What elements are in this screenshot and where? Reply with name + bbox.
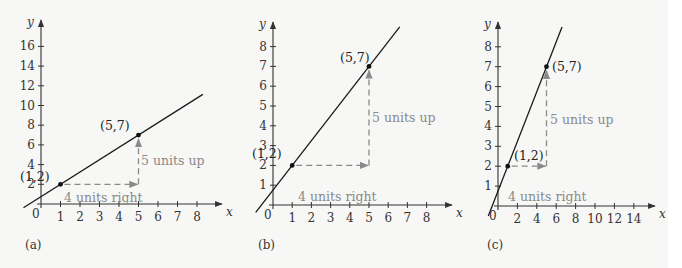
point-label-a-2: (5,7) (100, 118, 130, 133)
x-tick-label: 6 (384, 211, 392, 225)
x-tick-label: 2 (514, 212, 522, 226)
y-tick-label: 6 (27, 138, 35, 152)
point-a-1 (58, 182, 63, 187)
panel-label-c: (c) (487, 238, 503, 252)
y-tick-label: 7 (484, 60, 492, 74)
plots-canvas: (a) xy012345678246810121416(1,2)(5,7)4 u… (0, 0, 682, 268)
y-tick-label: 6 (484, 80, 492, 94)
point-label-c-2: (5,7) (552, 59, 582, 74)
x-tick-label: 6 (154, 210, 162, 224)
point-label-b-2: (5,7) (340, 50, 370, 65)
x-axis-label-a: x (226, 205, 233, 219)
x-tick-label: 3 (327, 211, 335, 225)
panel-label-b: (b) (258, 238, 275, 252)
point-c-2 (544, 64, 549, 69)
run-annotation-c: 4 units right (508, 189, 587, 204)
point-label-b-1: (1,2) (252, 146, 282, 161)
y-axis-label-c: y (483, 17, 491, 31)
x-tick-label: 8 (193, 210, 201, 224)
x-tick-label: 6 (552, 212, 560, 226)
y-tick-label: 8 (484, 40, 492, 54)
x-tick-label: 8 (423, 211, 431, 225)
x-tick-label: 4 (346, 211, 354, 225)
y-tick-label: 1 (259, 178, 267, 192)
x-tick-label: 4 (115, 210, 123, 224)
x-axis-label-c: x (659, 207, 666, 221)
run-annotation-b: 4 units right (298, 189, 377, 204)
y-tick-label: 5 (259, 99, 267, 113)
x-axis-label-b: x (456, 206, 463, 220)
y-axis-label-b: y (258, 17, 266, 31)
x-tick-label: 7 (174, 210, 182, 224)
x-tick-label: 10 (587, 212, 602, 226)
x-tick-label: 8 (572, 212, 580, 226)
x-tick-label: 5 (135, 210, 143, 224)
y-tick-label: 3 (484, 139, 492, 153)
point-b-1 (290, 163, 295, 168)
y-tick-label: 16 (20, 39, 35, 53)
figure: (a) xy012345678246810121416(1,2)(5,7)4 u… (0, 0, 682, 268)
y-tick-label: 10 (20, 99, 35, 113)
x-tick-label: 4 (533, 212, 541, 226)
y-axis-label-a: y (26, 15, 34, 29)
x-tick-label: 2 (76, 210, 84, 224)
y-tick-label: 8 (27, 118, 35, 132)
x-tick-label: 14 (626, 212, 642, 226)
y-tick-label: 4 (259, 119, 267, 133)
x-tick-label: 3 (96, 210, 104, 224)
x-tick-label: 5 (365, 211, 373, 225)
rise-annotation-b: 5 units up (372, 110, 436, 125)
x-tick-label: 1 (288, 211, 296, 225)
y-tick-label: 8 (259, 40, 267, 54)
origin-label-a: 0 (32, 207, 40, 221)
point-c-1 (505, 164, 510, 169)
rise-annotation-c: 5 units up (550, 112, 614, 127)
rise-annotation-a: 5 units up (141, 153, 205, 168)
run-annotation-a: 4 units right (64, 190, 143, 205)
x-tick-label: 7 (404, 211, 412, 225)
x-tick-label: 1 (57, 210, 65, 224)
y-tick-label: 5 (484, 100, 492, 114)
origin-label-b: 0 (264, 208, 272, 222)
point-label-a-1: (1,2) (20, 169, 50, 184)
x-tick-label: 12 (607, 212, 622, 226)
y-tick-label: 14 (20, 59, 36, 73)
panel-label-a: (a) (25, 238, 42, 252)
y-tick-label: 6 (259, 79, 267, 93)
y-tick-label: 7 (259, 59, 267, 73)
chart-a: (a) xy012345678246810121416(1,2)(5,7)4 u… (20, 15, 233, 252)
y-tick-label: 12 (20, 79, 35, 93)
y-tick-label: 4 (484, 119, 492, 133)
point-a-2 (136, 133, 141, 138)
y-tick-label: 2 (484, 159, 492, 173)
point-label-c-1: (1,2) (514, 148, 544, 163)
y-tick-label: 1 (484, 179, 492, 193)
chart-c: (c) xy0246810121412345678(1,2)(5,7)4 uni… (483, 17, 666, 252)
x-tick-label: 2 (308, 211, 316, 225)
chart-b: (b) xy01234567812345678(1,2)(5,7)4 units… (252, 17, 463, 252)
